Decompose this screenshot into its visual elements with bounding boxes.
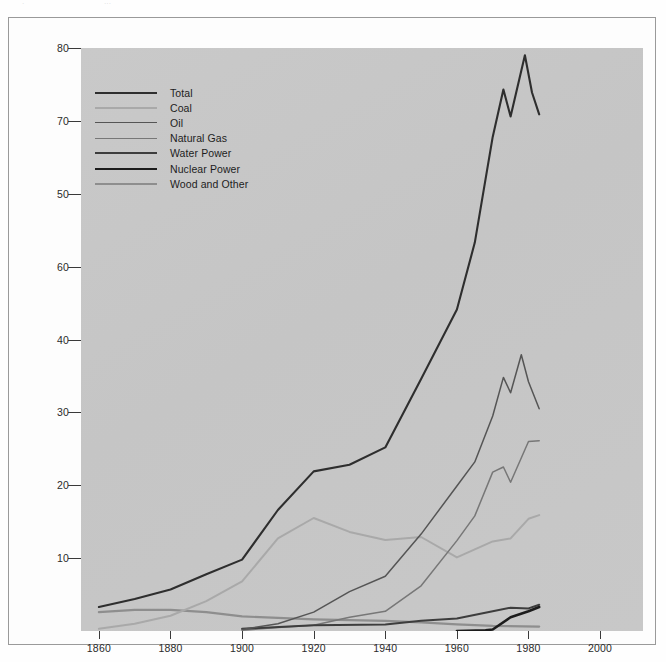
y-axis-tick-mark xyxy=(68,558,81,559)
x-axis-tick-label: 1940 xyxy=(373,642,397,654)
x-axis-tick-mark xyxy=(528,631,529,639)
x-axis-tick-label: 1880 xyxy=(158,642,182,654)
legend-swatch xyxy=(95,138,157,139)
x-axis-tick-label: 1920 xyxy=(302,642,326,654)
legend-swatch xyxy=(95,168,157,170)
x-axis-tick-mark xyxy=(314,631,315,639)
legend-label: Nuclear Power xyxy=(170,163,240,175)
scan-artifact-right: ··· xyxy=(104,0,111,7)
x-axis-tick-mark xyxy=(99,631,100,639)
legend-swatch xyxy=(95,183,157,185)
x-axis-tick-label: 2000 xyxy=(588,642,612,654)
legend-item: Coal xyxy=(95,100,248,115)
y-axis-tick-mark xyxy=(68,267,81,268)
legend-item: Natural Gas xyxy=(95,131,248,146)
x-axis-tick-label: 1860 xyxy=(87,642,111,654)
x-axis-tick-label: 1960 xyxy=(445,642,469,654)
series-line-coal xyxy=(99,515,539,629)
legend-swatch xyxy=(95,152,157,154)
chart-frame: Energy Consumption (quadrillion BTU's) 8… xyxy=(8,17,656,645)
legend-item: Nuclear Power xyxy=(95,161,248,176)
scan-artifact-left: · xyxy=(22,0,24,7)
legend-swatch xyxy=(95,92,157,94)
y-axis-tick-mark xyxy=(68,485,81,486)
x-axis-tick-label: 1900 xyxy=(230,642,254,654)
series-line-natural-gas xyxy=(242,441,539,631)
legend-label: Natural Gas xyxy=(170,132,227,144)
y-axis-tick-mark xyxy=(68,121,81,122)
x-axis-tick-mark xyxy=(385,631,386,639)
x-axis-tick-mark xyxy=(170,631,171,639)
series-line-oil xyxy=(242,355,539,630)
y-axis-tick-mark xyxy=(68,48,81,49)
legend-item: Water Power xyxy=(95,146,248,161)
legend-label: Oil xyxy=(170,117,183,129)
legend-item: Wood and Other xyxy=(95,176,248,191)
x-axis-tick-mark xyxy=(457,631,458,639)
x-axis-tick-mark xyxy=(600,631,601,639)
legend-item: Oil xyxy=(95,115,248,130)
legend-label: Coal xyxy=(170,102,192,114)
y-axis-tick-mark xyxy=(68,412,81,413)
chart-legend: TotalCoalOilNatural GasWater PowerNuclea… xyxy=(95,85,248,191)
scan-edge-artifacts: · ··· xyxy=(0,0,666,14)
legend-label: Total xyxy=(170,87,193,99)
x-axis-tick-label: 1980 xyxy=(516,642,540,654)
y-axis-tick-mark xyxy=(68,194,81,195)
y-axis-tick-mark xyxy=(68,340,81,341)
legend-swatch xyxy=(95,122,157,123)
x-axis-tick-mark xyxy=(242,631,243,639)
legend-item: Total xyxy=(95,85,248,100)
plot-panel: 8070506040302010 18601880190019201940196… xyxy=(81,48,643,631)
legend-label: Wood and Other xyxy=(170,178,248,190)
legend-swatch xyxy=(95,107,157,109)
legend-label: Water Power xyxy=(170,147,231,159)
